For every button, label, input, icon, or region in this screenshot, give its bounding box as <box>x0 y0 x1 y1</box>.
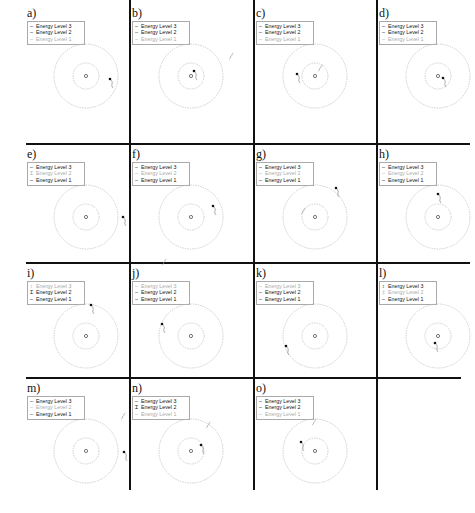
atom-panel-g: g)–Energy Level 3–Energy Level 2–Energy … <box>255 145 375 261</box>
photon-squiggle-icon <box>229 53 234 59</box>
electron-icon <box>123 451 126 454</box>
inner-orbit <box>302 323 328 349</box>
inner-orbit <box>302 63 328 89</box>
atom-diagram <box>26 145 146 270</box>
atom-panel-l: l)↕Energy Level 3‡Energy Level 2–Energy … <box>378 264 475 380</box>
nucleus-icon <box>313 449 316 452</box>
nucleus-icon <box>189 215 192 218</box>
electron-icon <box>335 187 338 190</box>
outer-orbit <box>159 419 223 483</box>
atom-panel-d: d)–Energy Level 3–Energy Level 2–Energy … <box>378 4 475 120</box>
atom-panel-a: a)–Energy Level 3–Energy Level 2–Energy … <box>26 4 146 120</box>
outer-orbit <box>283 304 347 368</box>
nucleus-icon <box>436 74 439 77</box>
outer-orbit <box>406 44 470 108</box>
inner-orbit <box>73 438 99 464</box>
electron-icon <box>434 342 437 345</box>
electron-icon <box>296 73 299 76</box>
atom-diagram <box>255 4 375 129</box>
outer-orbit <box>54 185 118 249</box>
photon-squiggle-icon <box>301 208 306 214</box>
nucleus-icon <box>313 74 316 77</box>
electron-icon <box>161 323 164 326</box>
inner-orbit <box>425 323 451 349</box>
outer-orbit <box>283 44 347 108</box>
inner-orbit <box>178 63 204 89</box>
inner-orbit <box>178 204 204 230</box>
outer-orbit <box>54 44 118 108</box>
nucleus-icon <box>313 215 316 218</box>
electron-trail <box>439 195 441 203</box>
inner-orbit <box>178 438 204 464</box>
atom-panel-c: c)–Energy Level 3–Energy Level 2–Energy … <box>255 4 375 120</box>
electron-trail <box>111 80 113 88</box>
atom-panel-f: f)–Energy Level 3–Energy Level 2–Energy … <box>131 145 251 261</box>
electron-trail <box>124 218 126 226</box>
outer-orbit <box>283 419 347 483</box>
electron-trail <box>214 207 216 215</box>
inner-orbit <box>302 204 328 230</box>
nucleus-icon <box>436 215 439 218</box>
electron-icon <box>109 78 112 81</box>
inner-orbit <box>425 63 451 89</box>
atom-panel-n: n)–Energy Level 3ꞮEnergy Level 2–Energy … <box>131 379 251 495</box>
outer-orbit <box>159 304 223 368</box>
atom-panel-h: h)–Energy Level 3–Energy Level 2–Energy … <box>378 145 475 261</box>
outer-orbit <box>54 419 118 483</box>
nucleus-icon <box>313 334 316 337</box>
electron-icon <box>300 441 303 444</box>
electron-icon <box>437 193 440 196</box>
electron-trail <box>125 453 127 461</box>
electron-trail <box>298 75 300 83</box>
outer-orbit <box>54 304 118 368</box>
electron-icon <box>122 216 125 219</box>
nucleus-icon <box>84 215 87 218</box>
atom-diagram <box>26 264 146 389</box>
atom-diagram <box>255 379 375 504</box>
electron-icon <box>212 205 215 208</box>
atom-diagram <box>131 4 251 129</box>
outer-orbit <box>406 304 470 368</box>
electron-trail <box>436 344 438 352</box>
atom-panel-k: k)–Energy Level 3–Energy Level 2–Energy … <box>255 264 375 380</box>
atom-panel-m: m)–Energy Level 3–Energy Level 2–Energy … <box>26 379 146 495</box>
inner-orbit <box>425 204 451 230</box>
photon-squiggle-icon <box>312 419 317 425</box>
electron-trail <box>337 189 339 197</box>
atom-diagram <box>378 264 475 389</box>
atom-panel-b: b)–Energy Level 3–Energy Level 2–Energy … <box>131 4 251 120</box>
atom-panel-j: j)–Energy Level 3–Energy Level 2–Energy … <box>131 264 251 380</box>
electron-icon <box>285 345 288 348</box>
electron-trail <box>92 306 94 314</box>
nucleus-icon <box>189 449 192 452</box>
electron-trail <box>444 79 446 87</box>
nucleus-icon <box>84 334 87 337</box>
electron-icon <box>90 304 93 307</box>
nucleus-icon <box>436 334 439 337</box>
atom-diagram <box>255 264 375 389</box>
inner-orbit <box>73 204 99 230</box>
nucleus-icon <box>84 74 87 77</box>
atom-diagram <box>378 4 475 129</box>
atom-panel-o: o)–Energy Level 3–Energy Level 2–Energy … <box>255 379 375 495</box>
atom-diagram <box>131 379 251 504</box>
atom-diagram <box>26 379 146 504</box>
inner-orbit <box>178 323 204 349</box>
outer-orbit <box>159 185 223 249</box>
electron-trail <box>195 72 197 80</box>
nucleus-icon <box>189 74 192 77</box>
atom-diagram <box>378 145 475 270</box>
photon-squiggle-icon <box>121 413 126 419</box>
nucleus-icon <box>189 334 192 337</box>
electron-icon <box>200 444 203 447</box>
electron-icon <box>442 77 445 80</box>
inner-orbit <box>73 323 99 349</box>
inner-orbit <box>302 438 328 464</box>
outer-orbit <box>159 44 223 108</box>
atom-panel-i: i)↕Energy Level 3ꞮEnergy Level 2–Energy … <box>26 264 146 380</box>
atom-diagram <box>26 4 146 129</box>
inner-orbit <box>73 63 99 89</box>
atom-diagram <box>131 145 251 270</box>
atom-panel-e: e)–Energy Level 3ꞮEnergy Level 2–Energy … <box>26 145 146 261</box>
nucleus-icon <box>84 449 87 452</box>
